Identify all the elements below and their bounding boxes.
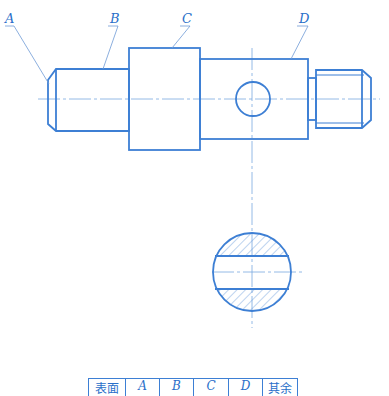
label-b: B bbox=[110, 12, 120, 25]
section-view bbox=[210, 230, 300, 315]
center-lines bbox=[38, 48, 380, 328]
header-surface: 表面 bbox=[89, 379, 126, 396]
label-a: A bbox=[5, 12, 14, 25]
label-c: C bbox=[182, 12, 192, 25]
header-d: D bbox=[229, 379, 263, 396]
header-a: A bbox=[126, 379, 160, 396]
surface-table: 表面 A B C D 其余 bbox=[88, 378, 298, 396]
section-a-b bbox=[48, 69, 129, 131]
header-b: B bbox=[160, 379, 194, 396]
header-others: 其余 bbox=[263, 379, 298, 396]
table-header-row: 表面 A B C D 其余 bbox=[89, 379, 298, 396]
label-d: D bbox=[299, 12, 309, 25]
header-c: C bbox=[194, 379, 229, 396]
